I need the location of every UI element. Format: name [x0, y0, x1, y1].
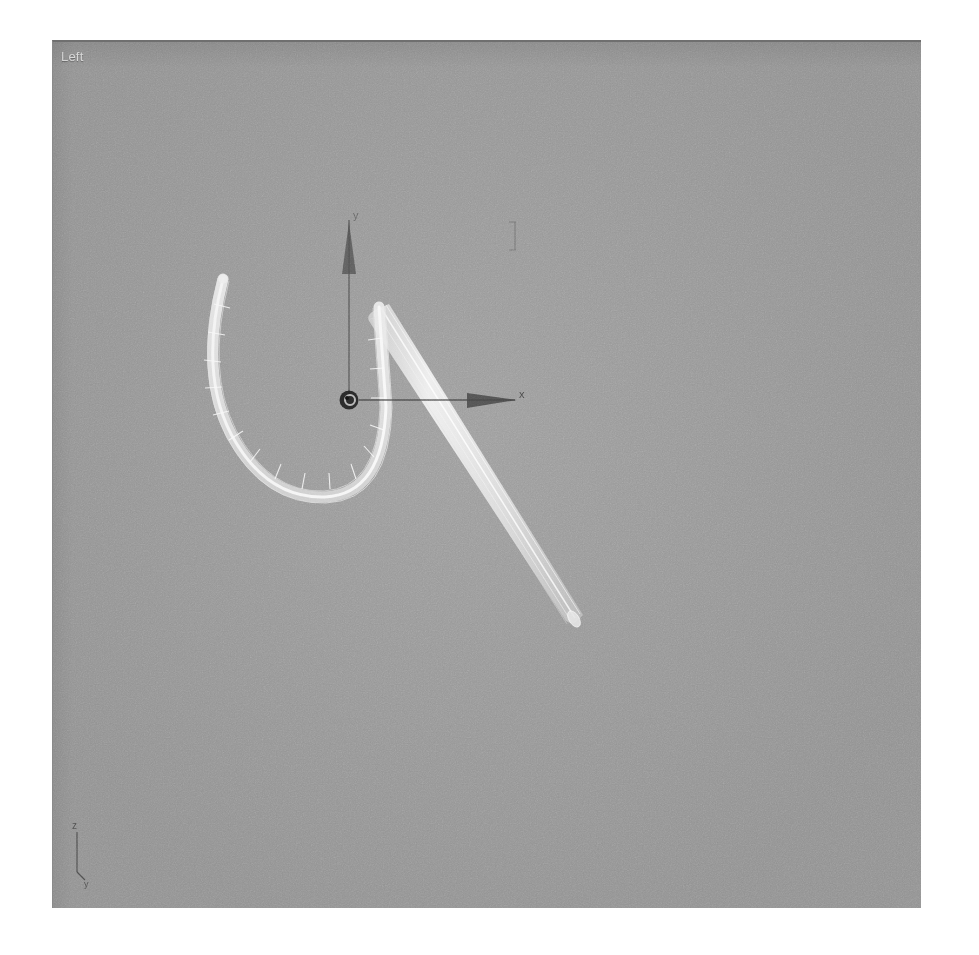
scene-canvas[interactable]: y x — [53, 42, 921, 908]
viewport-left[interactable]: Left — [52, 40, 921, 908]
viewport-grain — [53, 42, 921, 908]
application-window: Left — [0, 0, 979, 955]
